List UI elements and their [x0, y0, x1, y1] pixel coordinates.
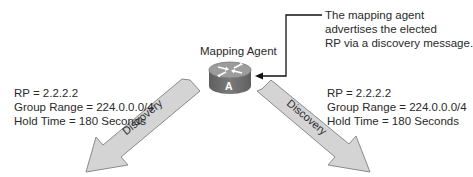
rp-address: RP = 2.2.2.2	[327, 86, 467, 100]
router-id-letter: A	[225, 80, 233, 92]
router-label: Mapping Agent	[200, 44, 277, 58]
group-range: Group Range = 224.0.0.0/4	[327, 100, 467, 114]
callout-line: The mapping agent	[325, 8, 473, 22]
group-range: Group Range = 224.0.0.0/4	[14, 100, 154, 114]
hold-time: Hold Time = 180 Seconds	[327, 114, 467, 128]
callout-line: advertises the elected	[325, 22, 473, 36]
right-rp-info: RP = 2.2.2.2 Group Range = 224.0.0.0/4 H…	[327, 86, 467, 128]
callout-line: RP via a discovery message.	[325, 36, 473, 50]
rp-address: RP = 2.2.2.2	[14, 86, 154, 100]
callout-text: The mapping agent advertises the elected…	[325, 8, 473, 50]
